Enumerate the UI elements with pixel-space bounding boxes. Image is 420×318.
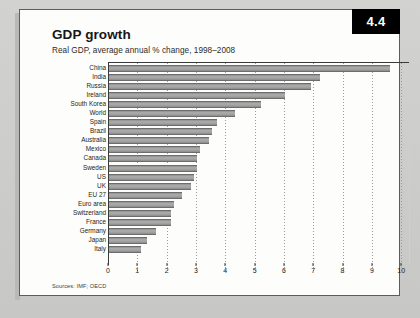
- bar: [109, 155, 197, 162]
- tick-mark-10: [401, 263, 402, 266]
- bar-label: Spain: [48, 118, 106, 126]
- chart-subtitle: Real GDP, average annual % change, 1998–…: [52, 46, 235, 55]
- bar-label: Japan: [48, 236, 106, 244]
- bar-row: Canada: [52, 154, 412, 163]
- bar-row: Russia: [52, 82, 412, 91]
- tick-mark-9: [371, 263, 372, 266]
- bar-label: Brazil: [48, 127, 106, 135]
- bar-label: Sweden: [48, 164, 106, 172]
- bar-label: Ireland: [48, 91, 106, 99]
- bar-row: Euro area: [52, 200, 412, 209]
- bar-label: France: [48, 218, 106, 226]
- bar-label: US: [48, 173, 106, 181]
- tick-mark-6: [283, 263, 284, 266]
- bar: [109, 137, 209, 144]
- bar-label: China: [48, 64, 106, 72]
- bar-label: Switzerland: [48, 209, 106, 217]
- bar: [109, 92, 285, 99]
- bar-rows: ChinaIndiaRussiaIrelandSouth KoreaWorldS…: [52, 64, 412, 254]
- tick-mark-3: [195, 263, 196, 266]
- bar: [109, 219, 171, 226]
- bar: [109, 165, 197, 172]
- tick-mark-1: [137, 263, 138, 266]
- bar-label: World: [48, 109, 106, 117]
- bar-row: India: [52, 73, 412, 82]
- x-tick-label: 4: [223, 267, 227, 274]
- bar-label: Mexico: [48, 145, 106, 153]
- bar: [109, 210, 171, 217]
- bar-row: France: [52, 218, 412, 227]
- plot-area: ChinaIndiaRussiaIrelandSouth KoreaWorldS…: [52, 62, 412, 272]
- bar: [109, 237, 147, 244]
- bar: [109, 83, 311, 90]
- bar-row: World: [52, 109, 412, 118]
- bar: [109, 146, 200, 153]
- bar-row: China: [52, 64, 412, 73]
- x-tick-label: 8: [341, 267, 345, 274]
- x-axis-ticks: 012345678910: [108, 267, 410, 281]
- bar-row: Sweden: [52, 164, 412, 173]
- bar-label: India: [48, 73, 106, 81]
- x-tick-label: 0: [106, 267, 110, 274]
- chart-page: GDP growth Real GDP, average annual % ch…: [0, 0, 420, 318]
- bar-row: Mexico: [52, 145, 412, 154]
- bar: [109, 228, 156, 235]
- bar-row: Ireland: [52, 91, 412, 100]
- bar: [109, 110, 235, 117]
- bar-label: EU 27: [48, 191, 106, 199]
- bar-row: Italy: [52, 245, 412, 254]
- x-tick-label: 10: [397, 267, 405, 274]
- bar-row: Spain: [52, 118, 412, 127]
- x-tick-label: 7: [311, 267, 315, 274]
- x-tick-label: 2: [165, 267, 169, 274]
- page-title: GDP growth: [52, 27, 131, 42]
- bar: [109, 201, 174, 208]
- tick-mark-7: [313, 263, 314, 266]
- bar: [109, 119, 217, 126]
- chart-card: GDP growth Real GDP, average annual % ch…: [19, 9, 400, 296]
- bar: [109, 101, 261, 108]
- bar-label: Germany: [48, 227, 106, 235]
- bar-label: Russia: [48, 82, 106, 90]
- tick-mark-2: [166, 263, 167, 266]
- bar: [109, 65, 390, 72]
- bar: [109, 128, 212, 135]
- bar-row: UK: [52, 182, 412, 191]
- bar-label: Australia: [48, 136, 106, 144]
- bar-label: Euro area: [48, 200, 106, 208]
- x-tick-label: 1: [135, 267, 139, 274]
- bar-label: UK: [48, 182, 106, 190]
- bar-row: South Korea: [52, 100, 412, 109]
- bar-row: EU 27: [52, 191, 412, 200]
- sources-note: Sources: IMF; OECD: [52, 283, 106, 289]
- x-tick-label: 6: [282, 267, 286, 274]
- bar-label: South Korea: [48, 100, 106, 108]
- bar-row: Brazil: [52, 127, 412, 136]
- bar: [109, 192, 182, 199]
- tick-mark-8: [342, 263, 343, 266]
- x-tick-label: 3: [194, 267, 198, 274]
- bar-label: Italy: [48, 245, 106, 253]
- bar: [109, 174, 194, 181]
- x-tick-label: 9: [370, 267, 374, 274]
- bar-label: Canada: [48, 154, 106, 162]
- bar-row: Japan: [52, 236, 412, 245]
- figure-number-badge: 4.4: [352, 9, 400, 34]
- tick-mark-4: [225, 263, 226, 266]
- tick-mark-5: [254, 263, 255, 266]
- bar-row: Germany: [52, 227, 412, 236]
- bar: [109, 183, 191, 190]
- bar-row: US: [52, 173, 412, 182]
- bar: [109, 74, 320, 81]
- tick-mark-0: [108, 263, 109, 266]
- bar-row: Australia: [52, 136, 412, 145]
- x-tick-label: 5: [253, 267, 257, 274]
- bar: [109, 246, 141, 253]
- bar-row: Switzerland: [52, 209, 412, 218]
